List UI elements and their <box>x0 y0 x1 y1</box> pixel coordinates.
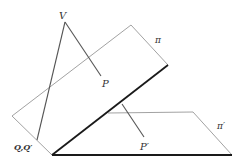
projection-diagram: V P P′ Q,Q′ π π′ <box>0 0 245 165</box>
plane-pi-prime-outline <box>108 112 232 155</box>
label-P-prime: P′ <box>139 141 150 152</box>
label-pi-prime: π′ <box>216 121 225 131</box>
ray-V-to-P <box>65 22 101 76</box>
label-V: V <box>59 10 68 21</box>
label-P: P <box>101 78 109 89</box>
label-pi: π <box>154 35 162 45</box>
ray-V-to-Q <box>37 22 65 140</box>
intersection-line <box>52 65 168 155</box>
plane-pi-outline <box>12 25 168 155</box>
diagram-svg: V P P′ Q,Q′ π π′ <box>0 0 245 165</box>
label-Q-Q-prime: Q,Q′ <box>14 142 33 152</box>
ray-to-P-prime <box>122 104 144 137</box>
